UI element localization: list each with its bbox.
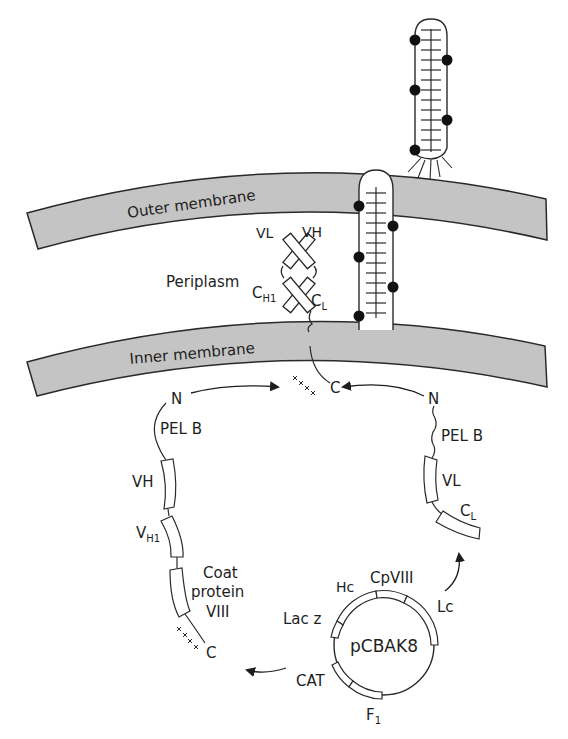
heavy-chain-positive-charges — [177, 627, 198, 649]
heavy-vh-label: VH — [132, 473, 154, 491]
plasmid-f1-segment — [349, 681, 382, 699]
coat-protein-viii-domain — [170, 568, 190, 617]
coat-label-line1: Coat — [203, 564, 238, 582]
positive-charges — [293, 376, 315, 395]
coat-protein-dot — [410, 145, 421, 156]
heavy-vh-domain — [161, 459, 176, 509]
coat-protein-dot — [410, 85, 421, 96]
heavy-vh1-domain — [161, 516, 183, 557]
plasmid-lc-label: Lc — [437, 598, 454, 616]
fab-vh-label: VH — [302, 224, 322, 240]
light-vl-domain — [424, 456, 438, 503]
fab-cl-label: CL — [311, 292, 327, 312]
coat-protein-dot — [354, 311, 365, 322]
coat-protein-dot — [354, 201, 365, 212]
light-chain-insertion-arrow — [343, 385, 424, 396]
plasmid-to-light-chain-arrow — [445, 554, 459, 591]
plasmid-cpviii-label: CpVIII — [370, 569, 414, 587]
heavy-chain-signal-label: PEL B — [160, 420, 202, 438]
extruded-phage — [408, 19, 453, 180]
heavy-vh1-label: VH1 — [136, 524, 160, 544]
coat-label-line3: VIII — [206, 603, 230, 621]
coat-protein-dot — [388, 221, 399, 232]
inner-membrane: Inner membrane — [27, 322, 547, 397]
plasmid-lacz-segment — [331, 621, 343, 638]
phage-tail-fibers — [408, 157, 452, 180]
plasmid-lacz-label: Lac z — [283, 610, 322, 628]
coat-protein-dot — [442, 115, 453, 126]
light-chain-n-terminus: N — [428, 390, 439, 408]
light-chain-construct: N PEL B VL CL — [424, 390, 483, 539]
coat-protein-dot — [410, 35, 421, 46]
coat-protein-dot — [442, 55, 453, 66]
coat-protein-dot — [388, 282, 399, 293]
plasmid-hc-segment — [337, 591, 377, 625]
plasmid-cpviii-segment — [376, 591, 407, 603]
phage-in-membrane — [354, 170, 399, 330]
fab-fragment — [281, 233, 316, 332]
light-chain-signal-label: PEL B — [441, 427, 483, 445]
heavy-chain-n-terminus: N — [171, 390, 182, 408]
fab-vl-label: VL — [256, 225, 274, 241]
plasmid-cat-label: CAT — [296, 672, 326, 690]
plasmid-hc-label: Hc — [336, 579, 354, 595]
coat-label-line2: protein — [191, 583, 244, 601]
heavy-chain-construct: N PEL B VH VH1 Coat protein VIII C — [132, 390, 244, 662]
fab-ch1-label: CH1 — [252, 284, 276, 304]
periplasm-label: Periplasm — [166, 273, 239, 291]
coat-protein-dot — [354, 252, 365, 263]
heavy-chain-insertion-arrow — [191, 386, 278, 393]
light-cl-label: CL — [460, 502, 476, 522]
plasmid-pcbak8: pCBAK8 Hc CpVIII Lc Lac z CAT F1 — [283, 569, 454, 726]
plasmid-name: pCBAK8 — [350, 636, 418, 656]
phage-display-diagram: Outer membrane Inner membrane Periplasm … — [0, 0, 568, 739]
heavy-chain-c-terminus: C — [206, 644, 216, 662]
anchor-c-terminus: C — [330, 379, 340, 397]
light-vl-label: VL — [442, 472, 461, 490]
plasmid-to-heavy-chain-arrow — [247, 668, 286, 672]
plasmid-cat-segment — [332, 662, 353, 687]
plasmid-f1-label: F1 — [366, 706, 381, 726]
